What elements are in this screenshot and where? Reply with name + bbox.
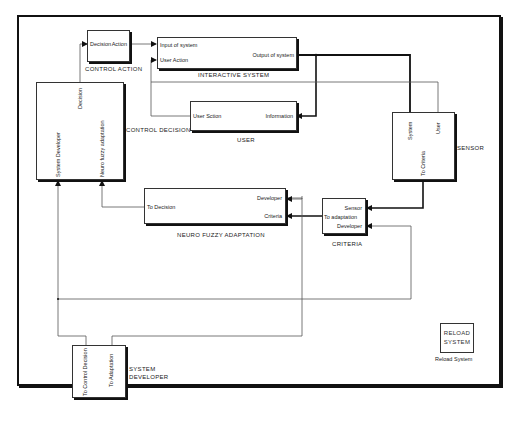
port-to-decision: To Decision — [147, 205, 175, 211]
port-information: Information — [265, 114, 293, 120]
neuro-fuzzy-adaptation-label: NEURO FUZZY ADAPTATION — [177, 232, 265, 238]
port-to-control-decision: To Control Decision — [83, 348, 89, 396]
reload-system-button[interactable]: RELOAD SYSTEM — [440, 323, 474, 353]
sensor-label: SENSOR — [457, 145, 484, 151]
port-developer: Developer — [257, 196, 282, 202]
control-action-block[interactable]: Decision Action — [87, 30, 130, 62]
criteria-block[interactable]: Sensor To adaptation Developer — [322, 198, 366, 234]
port-to-adaptation: To adaptation — [324, 215, 357, 221]
port-to-adaptation: To Adaptation — [109, 354, 115, 387]
port-decision-out: Decision — [78, 88, 84, 109]
neuro-fuzzy-adaptation-block[interactable]: To Decision Developer Criteria — [144, 188, 286, 224]
system-developer-label-line1: SYSTEM — [129, 366, 155, 372]
reload-system-text-1: RELOAD — [441, 329, 473, 338]
control-decision-block[interactable]: Decision System Developer Neuro fuzzy ad… — [36, 82, 124, 180]
port-sensor: Sensor — [345, 206, 362, 212]
control-decision-label: CONTROL DECISION — [126, 127, 191, 133]
port-neuro-fuzzy-adaptation: Neuro fuzzy adaptation — [100, 120, 106, 177]
criteria-label: CRITERIA — [332, 241, 362, 247]
control-action-label: CONTROL ACTION — [85, 66, 142, 72]
port-system-developer: System Developer — [56, 132, 62, 177]
port-output-of-system: Output of system — [252, 53, 294, 59]
port-developer-in: Developer — [337, 224, 362, 230]
system-developer-label-line2: DEVELOPER — [129, 374, 168, 380]
port-user: User — [436, 122, 442, 134]
diagram-canvas: Decision Action CONTROL ACTION Input of … — [0, 0, 514, 423]
port-system: System — [408, 122, 414, 140]
reload-system-label: Reload System — [435, 357, 472, 363]
port-decision: Decision — [90, 42, 111, 48]
port-action: Action — [112, 42, 127, 48]
interactive-system-label: INTERACTIVE SYSTEM — [198, 72, 269, 78]
reload-system-text-2: SYSTEM — [441, 338, 473, 347]
port-to-criteria: To Criteria — [421, 151, 427, 176]
user-label: USER — [237, 137, 255, 143]
port-input-of-system: Input of system — [160, 43, 197, 49]
port-criteria: Criteria — [264, 214, 282, 220]
interactive-system-block[interactable]: Input of system User Action Output of sy… — [157, 37, 297, 69]
port-user-action: User Action — [160, 58, 188, 64]
system-developer-block[interactable]: To Control Decision To Adaptation — [72, 345, 126, 398]
sensor-block-main[interactable]: System User To Criteria — [392, 112, 455, 180]
port-user-sction: User Sction — [193, 114, 221, 120]
user-block[interactable]: User Sction Information — [190, 101, 297, 131]
